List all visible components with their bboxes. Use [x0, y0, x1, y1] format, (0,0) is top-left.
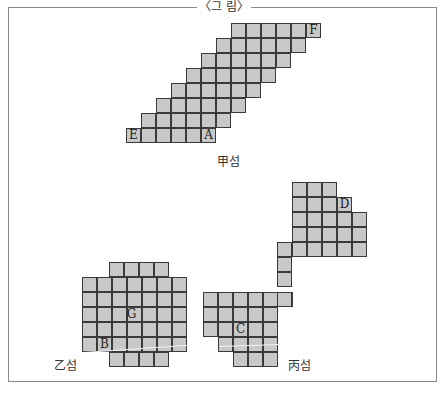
grid-cell: [157, 322, 172, 337]
grid-cell: [171, 128, 186, 143]
grid-cell: [216, 113, 231, 128]
grid-cell: [246, 53, 261, 68]
grid-cell: [141, 113, 156, 128]
grid-cell: [231, 53, 246, 68]
grid-cell: [218, 322, 233, 337]
grid-cell: [352, 227, 367, 242]
grid-cell: [216, 98, 231, 113]
grid-cell: [292, 182, 307, 197]
grid-cell: [277, 292, 292, 307]
point-label-a: A: [201, 128, 216, 143]
island-caption: 丙섬: [288, 356, 311, 373]
grid-cell: [276, 53, 291, 68]
grid-cell: [337, 212, 352, 227]
grid-cell: [233, 307, 248, 322]
figure-title: 〈그 림〉: [0, 0, 448, 14]
grid-cell: [261, 23, 276, 38]
grid-cell: [307, 212, 322, 227]
grid-cell: [246, 23, 261, 38]
grid-cell: [172, 322, 187, 337]
grid-cell: [97, 307, 112, 322]
grid-cell: [216, 83, 231, 98]
grid-cell: [231, 83, 246, 98]
grid-cell: [186, 83, 201, 98]
grid-cell: [292, 197, 307, 212]
grid-cell: [203, 322, 218, 337]
grid-cell: [201, 83, 216, 98]
grid-cell: [112, 292, 127, 307]
grid-cell: [97, 292, 112, 307]
figure-title-text: 〈그 림〉: [197, 0, 251, 14]
grid-cell: [261, 68, 276, 83]
grid-cell: [97, 277, 112, 292]
grid-cell: [201, 113, 216, 128]
grid-cell: [172, 292, 187, 307]
grid-cell: [112, 322, 127, 337]
grid-cell: [201, 68, 216, 83]
grid-cell: [109, 352, 124, 367]
grid-cell: [337, 242, 352, 257]
grid-cell: [218, 307, 233, 322]
grid-cell: [246, 83, 261, 98]
point-label-e: E: [126, 128, 141, 143]
grid-cell: [233, 352, 248, 367]
grid-cell: [231, 98, 246, 113]
island-caption: 甲섬: [217, 152, 240, 169]
grid-cell: [142, 307, 157, 322]
point-label-g: G: [124, 307, 139, 322]
grid-cell: [337, 227, 352, 242]
grid-cell: [139, 352, 154, 367]
grid-cell: [186, 98, 201, 113]
grid-cell: [322, 182, 337, 197]
grid-cell: [216, 38, 231, 53]
grid-cell: [186, 113, 201, 128]
grid-cell: [124, 262, 139, 277]
grid-cell: [171, 83, 186, 98]
grid-cell: [216, 53, 231, 68]
grid-cell: [276, 38, 291, 53]
point-label-f: F: [306, 23, 321, 38]
grid-cell: [82, 337, 97, 352]
grid-cell: [97, 322, 112, 337]
grid-cell: [154, 352, 169, 367]
grid-cell: [352, 212, 367, 227]
grid-cell: [127, 277, 142, 292]
grid-cell: [172, 307, 187, 322]
grid-cell: [292, 242, 307, 257]
grid-cell: [292, 227, 307, 242]
grid-cell: [171, 113, 186, 128]
grid-cell: [112, 277, 127, 292]
grid-cell: [307, 227, 322, 242]
grid-cell: [82, 277, 97, 292]
grid-cell: [142, 322, 157, 337]
grid-cell: [231, 38, 246, 53]
grid-cell: [218, 337, 233, 352]
grid-cell: [307, 197, 322, 212]
grid-cell: [276, 23, 291, 38]
grid-cell: [109, 262, 124, 277]
grid-cell: [248, 322, 263, 337]
grid-cell: [201, 53, 216, 68]
grid-cell: [261, 53, 276, 68]
grid-cell: [218, 292, 233, 307]
grid-cell: [127, 322, 142, 337]
grid-cell: [186, 128, 201, 143]
grid-cell: [248, 292, 263, 307]
grid-cell: [201, 98, 216, 113]
grid-cell: [157, 307, 172, 322]
grid-cell: [156, 113, 171, 128]
grid-cell: [171, 98, 186, 113]
grid-cell: [322, 227, 337, 242]
grid-cell: [248, 352, 263, 367]
grid-cell: [263, 307, 278, 322]
grid-cell: [322, 212, 337, 227]
grid-cell: [216, 68, 231, 83]
grid-cell: [233, 292, 248, 307]
grid-cell: [277, 257, 292, 272]
grid-cell: [291, 38, 306, 53]
grid-cell: [261, 38, 276, 53]
grid-cell: [157, 277, 172, 292]
grid-cell: [248, 307, 263, 322]
grid-cell: [246, 38, 261, 53]
grid-cell: [322, 197, 337, 212]
